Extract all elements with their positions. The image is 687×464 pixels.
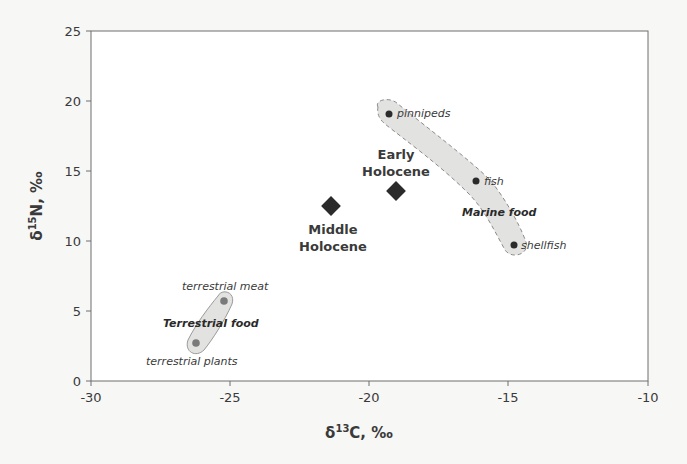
label-early-holocene: Early xyxy=(378,147,416,162)
x-tick-label: -25 xyxy=(219,390,240,405)
x-axis: -30 -25 -20 -15 -10 xyxy=(80,381,658,405)
y-tick-label: 10 xyxy=(64,234,81,249)
y-axis-title: δ15N, ‰ xyxy=(27,171,46,241)
label-marine-food: Marine food xyxy=(462,206,537,219)
data-point-pinnipeds xyxy=(386,111,393,118)
isotope-scatter-chart: 0 5 10 15 20 25 -30 -25 -20 -15 -10 δ13C… xyxy=(0,0,687,464)
y-tick-label: 15 xyxy=(64,164,81,179)
y-tick-label: 5 xyxy=(73,304,81,319)
label-middle-holocene: Middle xyxy=(308,222,357,237)
x-tick-label: -20 xyxy=(358,390,379,405)
y-tick-label: 0 xyxy=(73,374,81,389)
label-pinnipeds: pinnipeds xyxy=(396,107,451,120)
y-tick-label: 25 xyxy=(64,24,81,39)
data-point-fish xyxy=(473,178,480,185)
label-terrestrial-meat: terrestrial meat xyxy=(182,280,269,293)
data-point-shellfish xyxy=(511,242,518,249)
label-terrestrial-plants: terrestrial plants xyxy=(146,355,238,368)
y-tick-label: 20 xyxy=(64,94,81,109)
x-tick-label: -10 xyxy=(637,390,658,405)
x-tick-label: -15 xyxy=(497,390,518,405)
y-axis: 0 5 10 15 20 25 xyxy=(64,24,91,389)
x-axis-title: δ13C, ‰ xyxy=(325,423,393,442)
data-point-terrestrial-meat xyxy=(220,297,228,305)
label-early-holocene: Holocene xyxy=(362,164,430,179)
x-tick-label: -30 xyxy=(80,390,101,405)
label-terrestrial-food: Terrestrial food xyxy=(163,317,259,330)
label-middle-holocene: Holocene xyxy=(299,239,367,254)
data-point-terrestrial-plants xyxy=(192,339,200,347)
label-fish: fish xyxy=(484,175,504,188)
label-shellfish: shellfish xyxy=(521,239,566,252)
